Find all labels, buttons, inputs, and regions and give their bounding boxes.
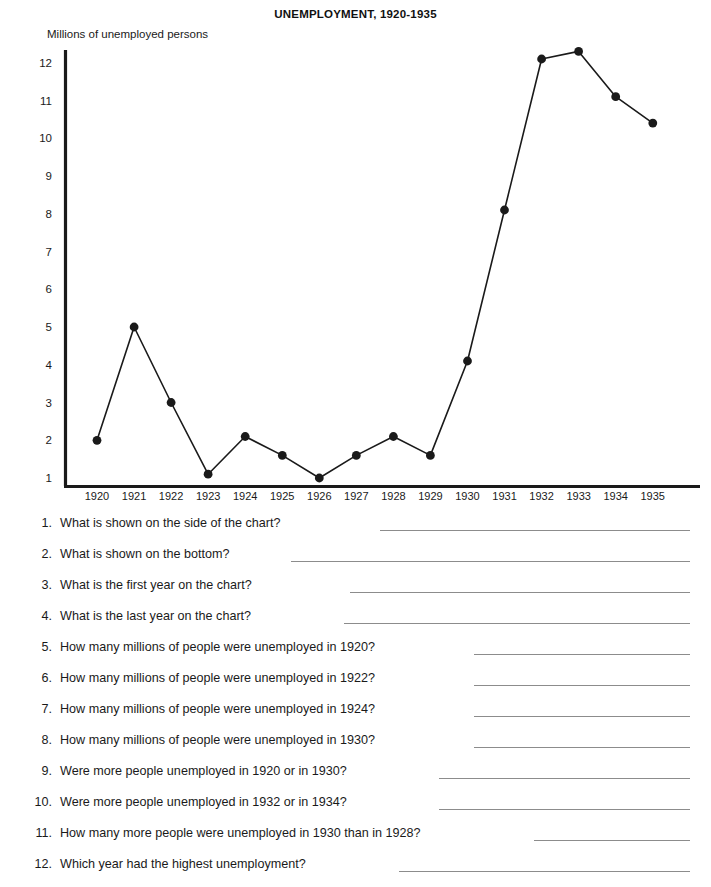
question-text: What is shown on the bottom? (60, 547, 229, 561)
data-point (241, 432, 250, 441)
question-text: What is the first year on the chart? (60, 578, 252, 592)
question-number: 9. (24, 764, 52, 778)
question-number: 7. (24, 702, 52, 716)
data-series-line (97, 51, 653, 478)
answer-blank[interactable] (291, 561, 690, 562)
data-point (278, 451, 287, 460)
question-row: 11.How many more people were unemployed … (0, 818, 711, 849)
answer-blank[interactable] (474, 716, 690, 717)
question-row: 2.What is shown on the bottom? (0, 539, 711, 570)
question-number: 10. (24, 795, 52, 809)
data-point (648, 119, 657, 128)
question-text: Were more people unemployed in 1932 or i… (60, 795, 347, 809)
answer-blank[interactable] (344, 623, 690, 624)
question-row: 4.What is the last year on the chart? (0, 601, 711, 632)
question-text: How many more people were unemployed in … (60, 826, 421, 840)
answer-blank[interactable] (439, 809, 690, 810)
question-text: What is shown on the side of the chart? (60, 516, 281, 530)
data-point (426, 451, 435, 460)
question-row: 8.How many millions of people were unemp… (0, 725, 711, 756)
answer-blank[interactable] (399, 871, 690, 872)
answer-blank[interactable] (474, 654, 690, 655)
data-point (611, 92, 620, 101)
question-text: How many millions of people were unemplo… (60, 640, 375, 654)
data-point (574, 47, 583, 56)
question-text: Which year had the highest unemployment? (60, 857, 306, 871)
question-number: 8. (24, 733, 52, 747)
question-row: 5.How many millions of people were unemp… (0, 632, 711, 663)
answer-blank[interactable] (350, 592, 690, 593)
question-number: 2. (24, 547, 52, 561)
question-row: 12.Which year had the highest unemployme… (0, 849, 711, 880)
question-number: 1. (24, 516, 52, 530)
question-number: 3. (24, 578, 52, 592)
line-chart: Millions of unemployed persons 123456789… (0, 0, 711, 505)
question-text: How many millions of people were unemplo… (60, 702, 375, 716)
data-point (463, 357, 472, 366)
data-point (204, 470, 213, 479)
plot-area (0, 0, 711, 505)
question-row: 7.How many millions of people were unemp… (0, 694, 711, 725)
question-row: 10.Were more people unemployed in 1932 o… (0, 787, 711, 818)
data-point (389, 432, 398, 441)
answer-blank[interactable] (534, 840, 690, 841)
question-number: 11. (24, 826, 52, 840)
question-number: 12. (24, 857, 52, 871)
data-point (537, 55, 546, 64)
data-point (130, 323, 139, 332)
data-point (352, 451, 361, 460)
question-row: 3.What is the first year on the chart? (0, 570, 711, 601)
answer-blank[interactable] (474, 747, 690, 748)
question-row: 6.How many millions of people were unemp… (0, 663, 711, 694)
data-point (500, 206, 509, 215)
answer-blank[interactable] (474, 685, 690, 686)
data-point (167, 398, 176, 407)
data-point (93, 436, 102, 445)
question-list: 1.What is shown on the side of the chart… (0, 508, 711, 880)
question-number: 6. (24, 671, 52, 685)
question-row: 9.Were more people unemployed in 1920 or… (0, 756, 711, 787)
question-number: 4. (24, 609, 52, 623)
data-point-markers (93, 47, 658, 482)
answer-blank[interactable] (380, 530, 690, 531)
question-text: Were more people unemployed in 1920 or i… (60, 764, 347, 778)
question-text: How many millions of people were unemplo… (60, 671, 375, 685)
question-number: 5. (24, 640, 52, 654)
question-text: What is the last year on the chart? (60, 609, 251, 623)
answer-blank[interactable] (439, 778, 690, 779)
data-point (315, 474, 324, 483)
question-row: 1.What is shown on the side of the chart… (0, 508, 711, 539)
question-text: How many millions of people were unemplo… (60, 733, 375, 747)
